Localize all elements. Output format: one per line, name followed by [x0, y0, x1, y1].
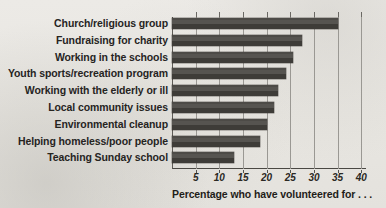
bar [172, 102, 274, 113]
category-label: Local community issues [48, 102, 168, 113]
bar [172, 85, 278, 96]
top-tick-mark [361, 12, 362, 17]
top-tick-mark [219, 12, 220, 17]
top-tick-mark [243, 12, 244, 17]
gridline [338, 17, 339, 169]
x-tick-label: 15 [237, 172, 248, 183]
category-label: Teaching Sunday school [47, 152, 168, 163]
gridline [314, 17, 315, 169]
top-tick-mark [196, 12, 197, 17]
category-label-column: Church/religious groupFundraising for ch… [0, 0, 170, 176]
category-label: Church/religious group [54, 18, 168, 29]
plot-area [172, 17, 366, 169]
bar [172, 52, 293, 63]
top-tick-mark [267, 12, 268, 17]
bar [172, 18, 338, 29]
top-tick-mark [338, 12, 339, 17]
x-axis: 510152025303540 [172, 170, 372, 184]
x-tick-label: 35 [332, 172, 343, 183]
top-tick-mark [290, 12, 291, 17]
category-label: Youth sports/recreation program [8, 68, 168, 79]
bar [172, 68, 286, 79]
bar [172, 35, 302, 46]
x-tick-label: 30 [308, 172, 319, 183]
x-tick-label: 25 [285, 172, 296, 183]
category-label: Working with the elderly or ill [25, 85, 168, 96]
category-label: Working in the schools [55, 52, 168, 63]
x-axis-caption: Percentage who have volunteered for . . … [172, 188, 372, 200]
top-tick-mark [314, 12, 315, 17]
category-label: Fundraising for charity [56, 35, 168, 46]
x-tick-label: 5 [193, 172, 199, 183]
x-tick-label: 40 [356, 172, 367, 183]
x-tick-label: 10 [214, 172, 225, 183]
category-label: Environmental cleanup [55, 119, 168, 130]
bar [172, 152, 234, 163]
gridline [361, 17, 362, 169]
bar [172, 119, 267, 130]
category-label: Helping homeless/poor people [18, 136, 168, 147]
bar [172, 136, 260, 147]
horizontal-bar-chart: Church/religious groupFundraising for ch… [0, 0, 386, 208]
x-tick-label: 20 [261, 172, 272, 183]
